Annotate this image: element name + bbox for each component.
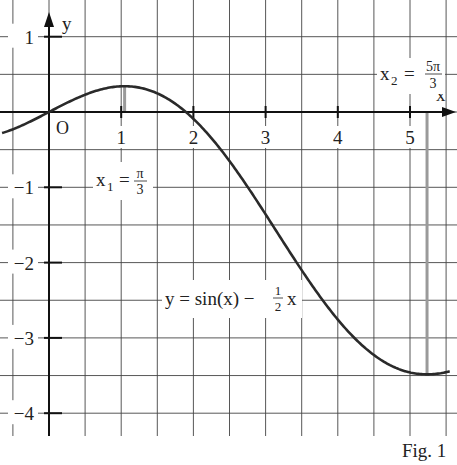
y-tick-label: −2 (14, 253, 34, 274)
ticks: 123451−1−2−3−4 (8, 24, 418, 425)
y-axis-label: y (62, 13, 72, 34)
x-axis-arrow-icon (442, 107, 456, 117)
chart-svg: 123451−1−2−3−4 x y O x 1 = π 3 x 2 = 5π … (0, 0, 457, 465)
function-label-lhs: y = sin(x) − (165, 288, 255, 310)
function-frac-num: 1 (275, 283, 282, 298)
x-tick-label: 2 (189, 127, 199, 148)
y-tick-label: −3 (14, 328, 34, 349)
origin-label: O (56, 118, 69, 138)
x2-label-main: x (380, 63, 390, 84)
x-tick-label: 3 (261, 127, 271, 148)
x1-frac-num: π (136, 166, 143, 181)
annotation-x2: x 2 = 5π 3 (377, 58, 445, 94)
x2-label-eq: = (404, 63, 415, 84)
y-axis-arrow-icon (44, 12, 54, 27)
y-tick-label: 1 (25, 27, 35, 48)
function-label-rhs: x (287, 288, 297, 309)
y-tick-label: −4 (14, 403, 35, 424)
annotation-x1: x 1 = π 3 (93, 162, 153, 200)
x-tick-label: 1 (116, 127, 126, 148)
annotation-function: y = sin(x) − 1 2 x (162, 280, 302, 318)
x2-label-sub: 2 (391, 73, 398, 88)
figure-caption: Fig. 1 (402, 440, 446, 461)
figure: 123451−1−2−3−4 x y O x 1 = π 3 x 2 = 5π … (0, 0, 457, 465)
x1-label-main: x (96, 169, 106, 190)
x2-frac-den: 3 (430, 76, 437, 91)
series-line-sin-x-minus-half-x (2, 86, 450, 374)
x-tick-label: 5 (405, 127, 415, 148)
x1-label-sub: 1 (107, 179, 114, 194)
x2-frac-num: 5π (426, 59, 440, 74)
x1-label-eq: = (119, 169, 130, 190)
x-tick-label: 4 (333, 127, 343, 148)
x1-frac-den: 3 (137, 182, 144, 197)
y-tick-label: −1 (14, 177, 34, 198)
function-frac-den: 2 (275, 299, 282, 314)
